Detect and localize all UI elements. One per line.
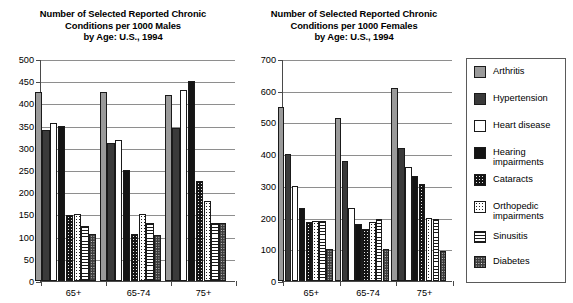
bar-hypertension: [107, 143, 114, 281]
y-axis-tick-label: 400: [261, 150, 276, 160]
bar-diabetes: [440, 251, 446, 281]
bar-cataracts: [131, 234, 138, 281]
bar-hearing: [188, 81, 195, 281]
bar-hypertension: [285, 154, 291, 281]
bar-orthopedic: [312, 221, 318, 281]
chart-females: Number of Selected Reported Chronic Cond…: [246, 0, 462, 303]
x-axis-label: 75+: [196, 288, 212, 298]
bar-sinusitis: [146, 223, 153, 281]
legend-item-heart: Heart disease: [474, 119, 561, 132]
legend-swatch-cataracts-icon: [474, 174, 486, 186]
chart-females-title: Number of Selected Reported Chronic Cond…: [246, 8, 462, 43]
legend-item-diabetes: Diabetes: [474, 255, 561, 268]
bar-diabetes: [383, 249, 389, 281]
legend-label-cataracts: Cataracts: [493, 173, 533, 184]
legend-swatch-diabetes-icon: [474, 256, 486, 268]
y-axis-tick-label: 450: [19, 77, 34, 87]
legend-label-sinusitis: Sinusitis: [493, 230, 528, 241]
bar-group: [41, 60, 106, 281]
legend-label-arthritis: Arthritis: [493, 65, 525, 76]
y-axis-tick-label: 300: [261, 182, 276, 192]
y-axis-tick-label: 0: [29, 277, 34, 287]
bar-hearing: [355, 224, 361, 281]
chart-males-plot-wrap: 05010015020025030035040045050065+65-7475…: [40, 60, 235, 282]
bar-arthritis: [335, 118, 341, 281]
bar-hypertension: [342, 161, 348, 282]
chart-males-plot-area: 05010015020025030035040045050065+65-7475…: [40, 60, 235, 282]
bar-arthritis: [165, 95, 172, 281]
bar-cataracts: [66, 215, 73, 281]
y-axis-tick-label: 0: [271, 277, 276, 287]
bar-diabetes: [219, 223, 226, 281]
chart-females-title-line2: Conditions per 1000 Females: [246, 20, 462, 32]
legend-swatch-heart-icon: [474, 120, 486, 132]
chart-males-title-line2: Conditions per 1000 Males: [0, 20, 246, 32]
y-axis-tick-label: 50: [24, 255, 34, 265]
chart-females-title-line3: by Age: U.S., 1994: [246, 31, 462, 43]
legend-item-hearing: Hearing impairments: [474, 146, 561, 167]
bar-hypertension: [42, 130, 49, 281]
bar-cataracts: [419, 184, 425, 281]
bar-arthritis: [35, 92, 42, 281]
bar-group: [283, 60, 340, 281]
bar-sinusitis: [319, 221, 325, 281]
y-axis-tick-label: 400: [19, 99, 34, 109]
bar-hypertension: [398, 148, 404, 281]
bar-group: [340, 60, 397, 281]
bar-heart: [292, 186, 298, 281]
bar-heart: [405, 167, 411, 281]
x-axis-label: 65+: [66, 288, 82, 298]
y-axis-tick-label: 100: [261, 245, 276, 255]
legend-swatch-hearing-icon: [474, 147, 486, 159]
x-axis-label: 65+: [304, 288, 320, 298]
legend-label-heart: Heart disease: [493, 119, 550, 130]
legend-swatch-arthritis-icon: [474, 66, 486, 78]
bar-group: [106, 60, 171, 281]
y-axis-tick-label: 500: [261, 118, 276, 128]
bar-hearing: [299, 208, 305, 281]
bar-orthopedic: [204, 201, 211, 281]
legend-list: ArthritisHypertensionHeart diseaseHearin…: [467, 59, 565, 282]
y-axis-tick-label: 250: [19, 166, 34, 176]
x-axis-tick: [236, 281, 237, 286]
bar-sinusitis: [433, 219, 439, 281]
bar-diabetes: [89, 234, 96, 281]
bar-cataracts: [306, 222, 312, 281]
chart-males-title: Number of Selected Reported Chronic Cond…: [0, 8, 246, 43]
chart-males: Number of Selected Reported Chronic Cond…: [0, 0, 246, 303]
legend-item-arthritis: Arthritis: [474, 65, 561, 78]
y-axis-tick-label: 100: [19, 233, 34, 243]
x-axis-label: 75+: [417, 288, 433, 298]
bar-group: [396, 60, 453, 281]
bar-cataracts: [362, 229, 368, 281]
chart-legend: ArthritisHypertensionHeart diseaseHearin…: [466, 58, 566, 283]
bar-sinusitis: [81, 226, 88, 282]
bar-arthritis: [278, 107, 284, 281]
chart-females-plot-area: 010020030040050060070065+65-7475+: [282, 60, 452, 282]
bar-orthopedic: [139, 214, 146, 281]
chart-females-title-line1: Number of Selected Reported Chronic: [246, 8, 462, 20]
bar-hearing: [123, 170, 130, 281]
y-axis-tick-label: 600: [261, 87, 276, 97]
legend-item-orthopedic: Orthopedic impairments: [474, 200, 561, 221]
chart-males-title-line3: by Age: U.S., 1994: [0, 31, 246, 43]
legend-label-hypertension: Hypertension: [493, 92, 548, 103]
legend-swatch-orthopedic-icon: [474, 201, 486, 213]
x-axis-tick: [396, 281, 397, 286]
legend-item-sinusitis: Sinusitis: [474, 230, 561, 243]
bar-orthopedic: [426, 218, 432, 281]
bar-heart: [180, 90, 187, 281]
legend-label-hearing: Hearing impairments: [493, 146, 561, 167]
bar-orthopedic: [74, 214, 81, 281]
bar-orthopedic: [369, 222, 375, 281]
y-axis-tick-label: 500: [19, 55, 34, 65]
legend-item-cataracts: Cataracts: [474, 173, 561, 186]
legend-label-diabetes: Diabetes: [493, 255, 530, 266]
chart-males-title-line1: Number of Selected Reported Chronic: [0, 8, 246, 20]
bar-arthritis: [391, 88, 397, 281]
bar-diabetes: [326, 249, 332, 281]
y-axis-tick-label: 350: [19, 122, 34, 132]
legend-label-orthopedic: Orthopedic impairments: [493, 200, 561, 221]
chart-females-plot-wrap: 010020030040050060070065+65-7475+: [282, 60, 452, 282]
bar-hypertension: [172, 128, 179, 281]
